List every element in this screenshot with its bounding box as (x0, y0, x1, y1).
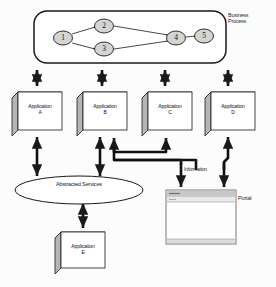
process-app-connectors (37, 70, 228, 86)
connector-app-b-app-c (114, 138, 166, 152)
portal-statusbar (167, 239, 235, 243)
portal-label: Portal (238, 196, 251, 202)
business-process-label: Business Process (228, 13, 248, 24)
diagram-vector-layer (0, 0, 276, 287)
application-box-b-label: Application B (83, 103, 127, 116)
portal-window (166, 190, 236, 244)
process-node-4-label: 4 (169, 33, 183, 42)
application-box-e-label: Application E (61, 243, 105, 256)
connector-bus-left-feed (114, 160, 181, 165)
process-node-3-label: 3 (97, 44, 111, 53)
application-box-d-label: Application D (211, 103, 255, 116)
application-box-a-label: Application A (18, 103, 62, 116)
portal-toolbar (167, 197, 235, 202)
application-box-c-label: Application C (148, 103, 192, 116)
process-node-5-label: 5 (197, 31, 211, 40)
diagram-canvas: Business Process Portal Information Abst… (0, 0, 276, 287)
information-label: Information (184, 167, 207, 172)
process-node-2-label: 2 (97, 21, 111, 30)
process-node-1-label: 1 (56, 33, 70, 42)
abstracted-services-label: Abstracted Services (34, 182, 124, 188)
